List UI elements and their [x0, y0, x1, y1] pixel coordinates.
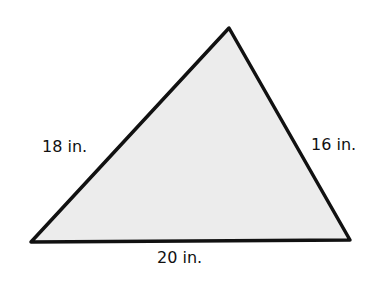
triangle-diagram: 18 in. 16 in. 20 in. [0, 0, 384, 281]
side-label-left: 18 in. [42, 137, 87, 156]
side-label-bottom: 20 in. [157, 248, 202, 267]
triangle-shape [31, 28, 350, 242]
side-label-right: 16 in. [311, 135, 356, 154]
